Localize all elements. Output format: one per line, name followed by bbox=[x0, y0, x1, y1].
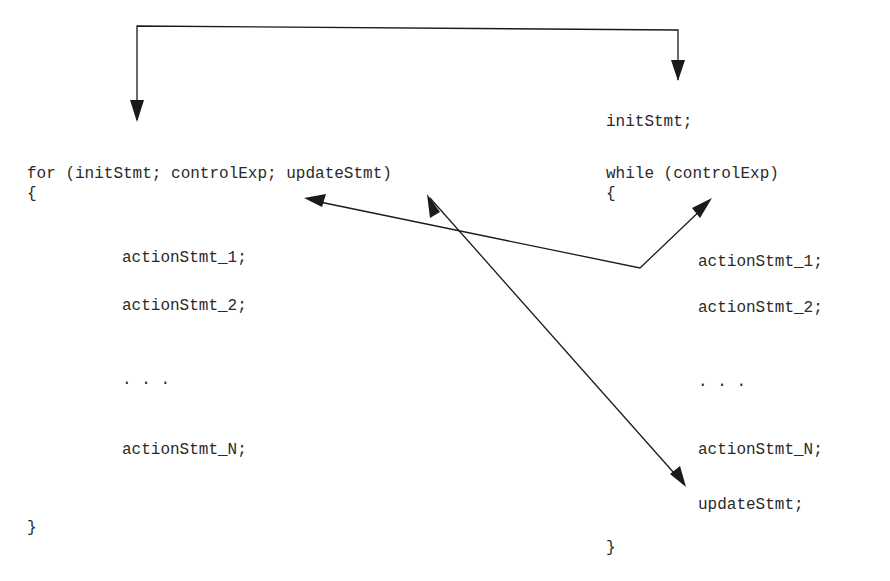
update-connector-arrow bbox=[430, 198, 682, 482]
control-arrowhead-for bbox=[304, 194, 326, 207]
init-connector-arrow bbox=[137, 26, 678, 120]
while-action-1: actionStmt_1; bbox=[698, 254, 823, 270]
for-header: for (initStmt; controlExp; updateStmt) bbox=[27, 166, 392, 182]
for-action-1: actionStmt_1; bbox=[122, 250, 247, 266]
arrows-layer bbox=[0, 0, 890, 581]
while-ellipsis: . . . bbox=[698, 374, 746, 390]
update-arrowhead-while bbox=[670, 466, 686, 487]
init-arrowhead-while bbox=[671, 60, 685, 81]
while-open-brace: { bbox=[606, 186, 616, 202]
for-open-brace: { bbox=[27, 186, 37, 202]
while-update: updateStmt; bbox=[698, 497, 804, 513]
update-arrowhead-for bbox=[427, 194, 440, 218]
control-connector-arrow bbox=[310, 200, 706, 268]
for-action-n: actionStmt_N; bbox=[122, 442, 247, 458]
while-header: while (controlExp) bbox=[606, 166, 779, 182]
while-init: initStmt; bbox=[606, 114, 692, 130]
while-action-2: actionStmt_2; bbox=[698, 300, 823, 316]
for-close-brace: } bbox=[27, 520, 37, 536]
while-close-brace: } bbox=[606, 540, 616, 556]
for-ellipsis: . . . bbox=[122, 372, 170, 388]
init-arrowhead-for bbox=[130, 100, 144, 122]
for-action-2: actionStmt_2; bbox=[122, 298, 247, 314]
while-action-n: actionStmt_N; bbox=[698, 442, 823, 458]
